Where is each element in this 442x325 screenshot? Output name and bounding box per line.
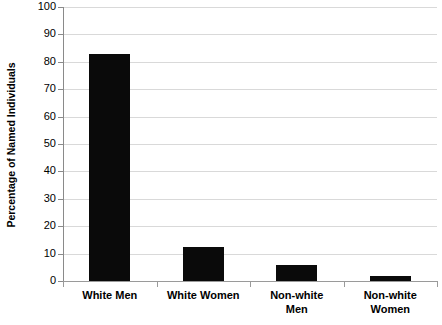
y-axis-tick-mark <box>58 254 63 255</box>
y-axis-tick-label: 30 <box>4 193 56 204</box>
y-axis-tick-label: 100 <box>4 1 56 12</box>
x-axis-label: White Men <box>63 289 157 303</box>
x-axis-tick-mark <box>437 282 438 287</box>
y-axis-tick-label: 60 <box>4 111 56 122</box>
x-axis-tick-mark <box>344 282 345 287</box>
x-axis-tick-mark <box>157 282 158 287</box>
plot-area <box>63 7 437 281</box>
y-axis-tick-label: 50 <box>4 138 56 149</box>
bar <box>183 247 224 281</box>
x-axis-label-line: Women <box>344 303 438 317</box>
x-axis-label-line: White Men <box>82 289 137 301</box>
y-axis-tick-mark <box>58 171 63 172</box>
y-axis-tick-mark <box>58 34 63 35</box>
x-axis-tick-mark <box>63 282 64 287</box>
y-axis-tick-labels: 0102030405060708090100 <box>0 0 56 325</box>
y-axis-tick-label: 90 <box>4 28 56 39</box>
y-axis-tick-mark <box>58 117 63 118</box>
x-axis-label-line: White Women <box>167 289 240 301</box>
y-axis-tick-label: 80 <box>4 56 56 67</box>
y-axis-line <box>63 7 64 282</box>
x-axis-label: White Women <box>157 289 251 303</box>
x-axis-label: Non-whiteMen <box>250 289 344 317</box>
gridline <box>63 34 437 35</box>
y-axis-tick-mark <box>58 7 63 8</box>
y-axis-tick-mark <box>58 199 63 200</box>
x-axis-label-line: Non-white <box>270 289 323 301</box>
y-axis-tick-mark <box>58 62 63 63</box>
y-axis-tick-label: 20 <box>4 220 56 231</box>
x-axis-label-line: Men <box>250 303 344 317</box>
y-axis-tick-label: 70 <box>4 83 56 94</box>
y-axis-tick-label: 10 <box>4 248 56 259</box>
x-axis-label: Non-whiteWomen <box>344 289 438 317</box>
x-axis-tick-mark <box>250 282 251 287</box>
gridline <box>63 7 437 8</box>
x-axis-label-line: Non-white <box>364 289 417 301</box>
bar <box>276 265 317 281</box>
y-axis-tick-label: 40 <box>4 165 56 176</box>
bar-chart: Percentage of Named Individuals 01020304… <box>0 0 442 325</box>
y-axis-tick-mark <box>58 89 63 90</box>
y-axis-tick-mark <box>58 144 63 145</box>
y-axis-tick-mark <box>58 226 63 227</box>
bar <box>89 54 130 281</box>
y-axis-tick-label: 0 <box>4 275 56 286</box>
